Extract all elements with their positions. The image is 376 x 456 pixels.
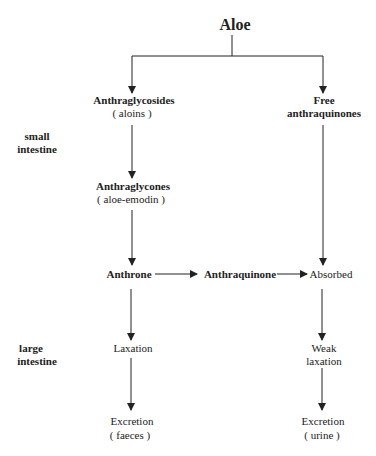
node-anthraglycosides-sub: ( aloins )	[112, 107, 151, 120]
node-anthrone: Anthrone	[106, 268, 151, 281]
title-aloe: Aloe	[219, 16, 250, 34]
region-large-line1: large	[19, 342, 43, 355]
node-weak-line1: Weak	[312, 342, 337, 355]
node-excretion-faeces-sub: ( faeces )	[110, 429, 150, 442]
region-small-line1: small	[24, 130, 49, 143]
aloe-metabolism-diagram: Aloe Anthraglycosides ( aloins ) Free an…	[0, 0, 376, 456]
node-excretion-urine: Excretion	[302, 415, 345, 428]
node-laxation: Laxation	[113, 342, 152, 355]
node-excretion-faeces: Excretion	[111, 415, 154, 428]
node-anthraglycosides: Anthraglycosides	[93, 94, 174, 107]
node-anthraglycones: Anthraglycones	[96, 180, 170, 193]
region-small-line2: intestine	[17, 143, 57, 156]
node-free-line1: Free	[313, 94, 334, 107]
node-free-line2: anthraquinones	[287, 107, 361, 120]
region-large-line2: intestine	[17, 355, 57, 368]
node-anthraglycones-sub: ( aloe-emodin )	[97, 193, 165, 206]
connector-lines	[0, 0, 376, 456]
node-anthraquinone: Anthraquinone	[204, 268, 276, 281]
node-absorbed: Absorbed	[310, 268, 353, 281]
node-weak-line2: laxation	[306, 355, 341, 368]
node-excretion-urine-sub: ( urine )	[304, 429, 339, 442]
